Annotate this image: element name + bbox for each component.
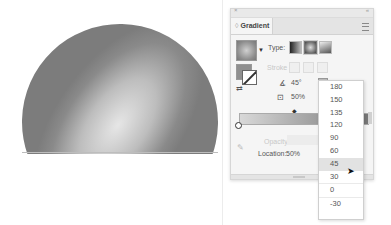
radial-gradient-button[interactable] (304, 41, 317, 54)
slider-scroll-handle[interactable] (368, 112, 372, 124)
type-label: Type: (268, 44, 285, 51)
dropdown-item-180[interactable]: 180 (319, 81, 363, 94)
angle-dropdown-menu: 180 150 135 120 90 60 45 30 0 -30 (318, 80, 364, 220)
gradient-fill-swatch[interactable] (236, 40, 257, 61)
aspect-ratio-icon: ⊡ (277, 93, 284, 102)
dropdown-item-60[interactable]: 60 (319, 145, 363, 158)
resize-grip-icon[interactable] (293, 176, 305, 178)
tab-label: Gradient (240, 22, 269, 29)
dropdown-item-135[interactable]: 135 (319, 107, 363, 120)
angle-icon: ∡ (279, 79, 286, 88)
angle-input[interactable]: 45° (291, 79, 317, 86)
half-sphere-base (22, 152, 218, 153)
dropdown-item-30[interactable]: 30 (319, 171, 363, 184)
freeform-gradient-button[interactable] (319, 41, 332, 54)
close-icon[interactable]: × (234, 7, 238, 13)
dropdown-item-0[interactable]: 0 (319, 183, 363, 197)
eyedropper-icon[interactable]: ✎ (237, 143, 244, 152)
reverse-gradient-icon[interactable]: ⇄ (236, 84, 243, 93)
stroke-within-button[interactable] (289, 62, 300, 73)
collapse-icon[interactable]: « (366, 7, 369, 13)
dropdown-item-45[interactable]: 45 (319, 158, 363, 171)
mouse-cursor-icon: ➤ (347, 166, 355, 176)
dropdown-item-120[interactable]: 120 (319, 119, 363, 132)
artboard-edge (222, 0, 223, 225)
dropdown-item-90[interactable]: 90 (319, 132, 363, 145)
stroke-along-button[interactable] (303, 62, 314, 73)
dropdown-item-150[interactable]: 150 (319, 94, 363, 107)
swatch-dropdown-caret-icon[interactable]: ▼ (258, 47, 264, 53)
stroke-none-swatch[interactable] (242, 70, 257, 85)
opacity-label: Opacity: (264, 138, 290, 145)
aspect-ratio-input[interactable]: 50% (291, 93, 305, 100)
radial-gradient-fill (22, 24, 218, 154)
dropdown-item-neg30[interactable]: -30 (319, 197, 363, 211)
canvas (0, 0, 224, 225)
panel-tabbar: ◊Gradient (231, 18, 373, 35)
panel-titlebar[interactable]: × « (231, 9, 373, 18)
half-sphere-artwork[interactable] (22, 24, 218, 154)
linear-gradient-button[interactable] (289, 41, 302, 54)
tab-gradient[interactable]: ◊Gradient (231, 18, 273, 34)
tab-grip-icon: ◊ (235, 22, 238, 29)
location-label: Location: (258, 150, 286, 157)
stroke-across-button[interactable] (317, 62, 328, 73)
gradient-color-stop[interactable] (235, 122, 242, 129)
stroke-label: Stroke (267, 64, 287, 71)
panel-menu-icon[interactable] (362, 23, 369, 31)
